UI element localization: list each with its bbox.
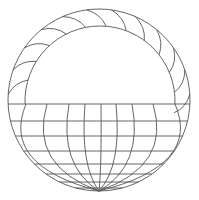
ring-spoke bbox=[175, 70, 185, 92]
grid-meridian-curve bbox=[99, 104, 180, 191]
circle-grid-drawing bbox=[0, 0, 199, 200]
ring-spoke bbox=[174, 94, 190, 112]
grid-meridian-curve bbox=[99, 104, 101, 191]
lower-grid bbox=[8, 104, 190, 191]
grid-meridian-curve bbox=[21, 104, 99, 191]
ring-spoke bbox=[8, 80, 28, 94]
ring-spoke bbox=[157, 30, 161, 55]
grid-meridian-curve bbox=[84, 104, 99, 191]
ring-spoke bbox=[169, 48, 174, 73]
grid-meridian-curve bbox=[99, 104, 117, 191]
ring-spoke bbox=[87, 10, 107, 26]
ring-spoke bbox=[25, 44, 50, 48]
ring-spoke bbox=[41, 28, 66, 34]
upper-ring-band bbox=[8, 10, 190, 113]
ring-spoke bbox=[63, 17, 86, 28]
inner-circle-arc bbox=[25, 26, 175, 104]
